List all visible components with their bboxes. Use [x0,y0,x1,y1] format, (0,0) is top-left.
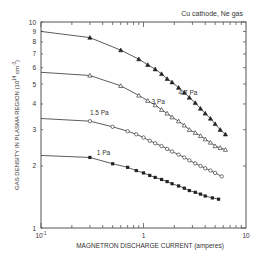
triangle-marker [137,57,141,61]
circle-marker [153,142,156,145]
triangle-marker [137,93,141,97]
y-tick-label: 4 [32,100,36,107]
circle-marker [204,167,207,170]
square-marker [199,193,202,196]
square-marker [211,196,214,199]
triangle-marker [146,99,150,103]
triangle-marker [170,80,174,84]
x-tick-label: 10 [242,232,250,239]
square-marker [166,180,169,183]
y-tick-label: 8 [32,38,36,45]
x-tick-label-base: 1 [142,232,146,239]
circle-marker [142,136,145,139]
y-axis-label-unit: cm [14,66,20,76]
y-axis-label-main: GAS DENSITY IN PLASMA REGION (10 [14,80,20,190]
series-line [41,72,225,149]
gas-density-chart: 1234567891010-1110 4.7 Pa3 Pa1.5 Pa1 Pa … [0,0,263,267]
x-tick-label-base: 10 [242,232,250,239]
circle-marker [160,144,163,147]
series-line [41,31,225,134]
circle-marker [199,164,202,167]
triangle-marker [176,119,180,123]
triangle-marker [146,63,150,67]
circle-marker [135,133,138,136]
circle-marker [220,175,223,178]
circle-marker [126,130,129,133]
square-marker [217,198,220,201]
square-marker [194,191,197,194]
square-marker [111,162,114,165]
circle-marker [213,171,216,174]
triangle-marker [165,111,169,115]
y-tick-label: 7 [32,50,36,57]
y-tick-label: 9 [32,28,36,35]
triangle-marker [153,67,157,71]
series-label: 1.5 Pa [90,109,109,116]
y-tick-label: 2 [32,162,36,169]
data-series [41,31,228,200]
circle-marker [88,119,91,122]
y-tick-label: 5 [32,81,36,88]
y-tick-label: 10 [29,19,37,26]
square-marker [142,171,145,174]
y-tick-label: 3 [32,126,36,133]
circle-marker [183,156,186,159]
square-marker [177,184,180,187]
series-3-pa [41,72,228,151]
series-label: 3 Pa [152,98,166,105]
y-axis-label-close: ) [14,60,20,62]
circle-marker [111,125,114,128]
square-marker [204,194,207,197]
series-line [41,119,222,177]
square-marker [135,169,138,172]
x-tick-label: 1 [142,232,146,239]
x-tick-label: 10-1 [35,231,47,239]
y-tick-label: 1 [32,225,36,232]
y-tick-label: 6 [32,64,36,71]
circle-marker [170,150,173,153]
triangle-marker [193,131,197,135]
x-axis-label: MAGNETRON DISCHARGE CURRENT (amperes) [76,242,224,250]
chart-title: Cu cathode, Ne gas [181,10,243,18]
triangle-marker [198,134,202,138]
x-tick-label-exp: -1 [43,231,47,236]
square-marker [88,156,91,159]
square-marker [160,178,163,181]
triangle-marker [208,140,212,144]
square-marker [148,174,151,177]
square-marker [154,176,157,179]
circle-marker [194,162,197,165]
series-label: 1 Pa [97,149,111,156]
axis-tick-labels: 1234567891010-1110 [29,19,250,240]
triangle-marker [203,137,207,141]
square-marker [170,182,173,185]
square-marker [188,189,191,192]
circle-marker [209,169,212,172]
circle-marker [177,153,180,156]
square-marker [183,187,186,190]
circle-marker [148,139,151,142]
circle-marker [188,159,191,162]
square-marker [126,166,129,169]
y-axis-label: GAS DENSITY IN PLASMA REGION (1014 cm-3) [12,60,20,190]
circle-marker [165,147,168,150]
series-label: 4.7 Pa [179,89,198,96]
